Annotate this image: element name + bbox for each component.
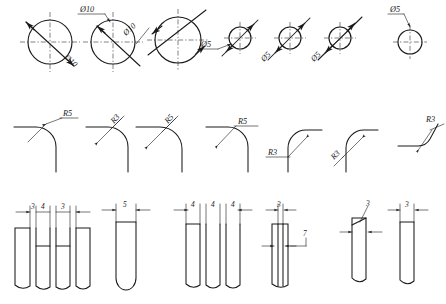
dim-label-l6: 3 xyxy=(404,200,409,209)
linear-figure-4 xyxy=(262,204,306,287)
diameter-figure-7 xyxy=(388,14,427,59)
dim-label-l3-b: 4 xyxy=(211,200,215,209)
diameter-figure-6 xyxy=(318,17,362,60)
linear-figure-2 xyxy=(102,204,150,290)
dim-label-l1-a: 3 xyxy=(30,202,35,211)
drawing-sheet: Ø10 Ø10 Ø10 Ø5 Ø5 Ø5 Ø5 R5 R3 R5 R5 R3 R… xyxy=(0,0,446,304)
dim-label-d4: Ø5 xyxy=(200,40,211,49)
linear-figure-5 xyxy=(340,206,382,282)
radius-label-r2: R3 xyxy=(108,113,121,127)
linear-figure-1 xyxy=(15,206,90,289)
radius-figure-3 xyxy=(136,116,182,172)
dim-label-l4-width: 3 xyxy=(276,200,281,209)
dim-label-d1: Ø10 xyxy=(62,52,79,69)
radius-label-r4: R5 xyxy=(237,117,247,126)
dim-label-l4-depth: 7 xyxy=(303,229,307,238)
dim-label-d7: Ø5 xyxy=(389,5,400,14)
radius-figure-4 xyxy=(206,126,258,172)
dim-label-d2: Ø10 xyxy=(79,5,94,14)
diameter-figure-3 xyxy=(136,9,209,71)
radius-label-r1: R5 xyxy=(62,109,72,118)
diameter-figure-2 xyxy=(78,12,143,72)
linear-figure-6 xyxy=(388,204,428,284)
radius-label-r3: R5 xyxy=(162,113,175,127)
dim-label-l2: 5 xyxy=(123,200,127,209)
diameter-figure-5 xyxy=(268,18,310,60)
radius-label-r7: R3 xyxy=(425,115,435,124)
radius-figure-1 xyxy=(14,118,78,172)
dim-label-l5: 3 xyxy=(365,199,370,208)
radius-label-r5: R3 xyxy=(267,148,277,157)
radius-figure-7 xyxy=(398,124,444,149)
dim-label-d6: Ø5 xyxy=(308,50,322,64)
dim-label-l3-c: 4 xyxy=(231,200,235,209)
dim-label-l1-c: 3 xyxy=(60,202,65,211)
dim-label-l3-a: 4 xyxy=(191,200,195,209)
dim-label-d5: Ø5 xyxy=(258,50,272,64)
linear-figure-3 xyxy=(174,204,252,288)
dim-label-l1-b: 4 xyxy=(41,202,45,211)
dim-label-d3: Ø10 xyxy=(120,21,137,38)
radius-figure-6 xyxy=(334,130,378,172)
diameter-figure-4 xyxy=(200,20,258,56)
radius-figure-2 xyxy=(86,116,128,172)
